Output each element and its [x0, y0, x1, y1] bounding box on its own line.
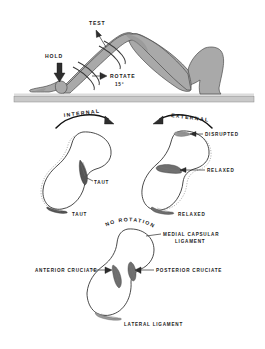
test-arrow	[96, 30, 106, 47]
medial-capsular-ligament-leader	[146, 234, 161, 236]
label-medial-capsular-line2: LIGAMENT	[175, 239, 205, 244]
label-external-disrupted: DISRUPTED	[205, 132, 239, 137]
label-no-rotation: NO ROTATION	[104, 216, 156, 229]
label-rotate-degrees: 15°	[115, 82, 124, 87]
label-medial-capsular-line1: MEDIAL CAPSULAR	[163, 232, 219, 237]
panel-neutral-reference: NO ROTATION MEDIAL CAPSULAR LIGAMENT ANT…	[35, 216, 222, 327]
label-external-relaxed-lower: RELAXED	[178, 212, 206, 217]
external-arrow-head	[153, 116, 163, 124]
label-internal-taut-upper: TAUT	[94, 180, 109, 185]
label-lateral-ligament: LATERAL LIGAMENT	[124, 322, 183, 327]
panel-leg-test-position: TEST HOLD ROTATE 15°	[14, 20, 254, 102]
examination-surface	[14, 94, 254, 103]
label-posterior-cruciate: POSTERIOR CRUCIATE	[156, 268, 222, 273]
internal-arrow-head	[105, 116, 115, 124]
knee-rotation-diagram: TEST HOLD ROTATE 15° INTERNAL	[0, 0, 265, 349]
ankle-silhouette	[55, 81, 67, 93]
label-hold: HOLD	[45, 53, 63, 59]
pelvis-silhouette	[188, 47, 224, 94]
label-internal-taut-lower: TAUT	[72, 212, 87, 217]
hold-arrow	[54, 63, 65, 82]
panel-rotation-comparison: INTERNAL TAUT TAUT	[41, 108, 239, 217]
external-rotation-group: EXTERNAL DISRUPTED	[142, 112, 239, 217]
label-external-relaxed-middle: RELAXED	[207, 168, 235, 173]
label-anterior-cruciate: ANTERIOR CRUCIATE	[35, 268, 97, 273]
internal-rotated-outline	[43, 132, 111, 209]
illustration-plate: TEST HOLD ROTATE 15° INTERNAL	[0, 0, 265, 349]
label-external: EXTERNAL	[171, 112, 210, 123]
internal-rotation-group: INTERNAL TAUT TAUT	[41, 108, 114, 217]
label-test: TEST	[89, 20, 106, 26]
label-rotate: ROTATE	[110, 73, 136, 79]
label-internal: INTERNAL	[63, 108, 100, 118]
internal-upper-leader	[87, 178, 93, 181]
